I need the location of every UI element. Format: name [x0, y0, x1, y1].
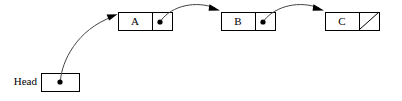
node-b-group: B: [221, 12, 275, 30]
link-head-to-node-a: [61, 14, 118, 80]
link-a-to-b-arrowhead: [209, 4, 220, 11]
link-head-to-a-curve: [61, 17, 114, 81]
link-head-to-a-arrowhead: [107, 14, 118, 20]
head-label: Head: [14, 75, 38, 87]
node-a-group: A: [118, 12, 172, 30]
node-c-box: [325, 12, 379, 30]
diagram-canvas: Head A B C: [0, 0, 402, 101]
node-c-group: C: [325, 12, 379, 30]
node-c-data-label: C: [338, 15, 345, 27]
node-b-box: [221, 12, 275, 30]
link-b-to-c-arrowhead: [313, 4, 324, 11]
head-pointer-dot: [57, 79, 62, 84]
node-a-data-label: A: [131, 15, 139, 27]
node-a-box: [118, 12, 172, 30]
linked-list-diagram: Head A B C: [0, 0, 402, 101]
node-b-data-label: B: [234, 15, 241, 27]
head-pointer-group: Head: [14, 73, 79, 91]
